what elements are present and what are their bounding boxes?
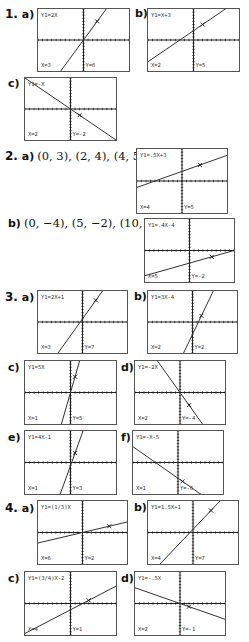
y-value: Y=-1	[182, 626, 195, 632]
graph-4c: Y1=(3/4)X-2 X=4 Y=1	[24, 571, 117, 636]
y-value: Y=-6	[180, 485, 193, 491]
part-1b-label: b)	[135, 8, 148, 20]
graph-plot	[135, 361, 225, 424]
graph-plot	[25, 78, 116, 140]
y-value: Y=-2	[73, 131, 86, 137]
equation-label: Y1=2X	[41, 12, 58, 18]
equation-label: Y1=-X-5	[136, 434, 159, 440]
equation-label: Y1=(3/4)X-2	[28, 575, 64, 581]
part-3d-label: d)	[121, 362, 134, 374]
graph-3c: Y1=5X X=1 Y=5	[24, 360, 117, 425]
equation-label: Y1=3X-4	[151, 294, 174, 300]
x-value: X=4	[28, 626, 38, 632]
problem-2b-points: b)(0, −4), (5, −2), (10, 0)	[8, 217, 158, 230]
graph-plot	[25, 361, 116, 424]
graph-plot	[145, 219, 234, 282]
equation-label: Y1=.4X-4	[148, 222, 175, 228]
x-value: X=3	[41, 62, 51, 68]
graph-plot	[148, 9, 239, 71]
equation-label: Y1=5X	[28, 364, 45, 370]
equation-label: Y1=1.5X+1	[151, 504, 181, 510]
y-value: Y=7	[85, 344, 95, 350]
graph-4d: Y1=-.5X X=2 Y=-1	[134, 571, 226, 636]
graph-plot	[25, 572, 116, 635]
x-value: X=2	[138, 626, 148, 632]
part-1c-label: c)	[8, 78, 20, 90]
equation-label: Y1=-X	[28, 81, 45, 87]
problem-1-label: 1. a)	[5, 8, 34, 21]
part-3b-label: b)	[134, 291, 147, 303]
graph-plot	[137, 149, 227, 213]
graph-2b: Y1=.4X-4 X=5 Y=-2	[144, 218, 235, 283]
graph-3b: Y1=3X-4 X=2 Y=2	[147, 290, 238, 354]
equation-label: Y1=-2X	[138, 364, 158, 370]
part-3c-label: c)	[8, 362, 20, 374]
y-value: Y=1	[73, 626, 83, 632]
x-value: X=4	[151, 555, 161, 561]
x-value: X=1	[136, 485, 146, 491]
graph-plot	[25, 431, 116, 494]
part-4d-label: d)	[121, 573, 134, 585]
graph-4b: Y1=1.5X+1 X=4 Y=7	[147, 500, 239, 565]
y-value: Y=-4	[182, 415, 195, 421]
x-value: X=6	[41, 555, 51, 561]
y-value: Y=2	[85, 555, 95, 561]
y-value: Y=7	[195, 555, 205, 561]
graph-plot	[148, 501, 238, 564]
y-value: Y=5	[196, 62, 206, 68]
problem-3-label: 3. a)	[5, 291, 34, 304]
graph-plot	[148, 291, 237, 353]
graph-3a: Y1=2X+1 X=3 Y=7	[37, 290, 128, 354]
graph-plot	[38, 9, 129, 71]
equation-label: Y1=X+3	[151, 12, 171, 18]
y-value: Y=3	[73, 485, 83, 491]
y-value: Y=6	[86, 62, 96, 68]
x-value: X=2	[138, 415, 148, 421]
equation-label: Y1=4X-1	[28, 434, 51, 440]
graph-1b: Y1=X+3 X=2 Y=5	[147, 8, 240, 72]
graph-plot	[38, 291, 127, 353]
x-value: X=4	[140, 204, 150, 210]
x-value: X=2	[151, 62, 161, 68]
part-4b-label: b)	[134, 502, 147, 514]
graph-3e: Y1=4X-1 X=1 Y=3	[24, 430, 117, 495]
graph-4a: Y1=(1/3)X X=6 Y=2	[37, 500, 128, 565]
y-value: Y=5	[73, 415, 83, 421]
graph-1c: Y1=-X X=2 Y=-2	[24, 77, 117, 141]
equation-label: Y1=.5X+3	[140, 152, 167, 158]
equation-label: Y1=-.5X	[138, 575, 161, 581]
graph-2a: Y1=.5X+3 X=4 Y=5	[136, 148, 228, 214]
part-4c-label: c)	[8, 573, 20, 585]
y-value: Y=5	[184, 204, 194, 210]
x-value: X=5	[148, 273, 158, 279]
problem-4-label: 4. a)	[5, 502, 34, 515]
x-value: X=2	[28, 131, 38, 137]
y-value: Y=-2	[192, 273, 205, 279]
part-3f-label: f)	[121, 432, 131, 444]
graph-3f: Y1=-X-5 X=1 Y=-6	[132, 430, 224, 495]
x-value: X=2	[151, 344, 161, 350]
x-value: X=1	[28, 485, 38, 491]
graph-plot	[135, 572, 225, 635]
x-value: X=3	[41, 344, 51, 350]
graph-3d: Y1=-2X X=2 Y=-4	[134, 360, 226, 425]
y-value: Y=2	[195, 344, 205, 350]
equation-label: Y1=(1/3)X	[41, 504, 71, 510]
graph-plot	[133, 431, 223, 494]
part-3e-label: e)	[8, 432, 21, 444]
graph-1a: Y1=2X X=3 Y=6	[37, 8, 130, 72]
problem-2a-points: 2. a)(0, 3), (2, 4), (4, 5)	[5, 150, 145, 163]
graph-plot	[38, 501, 127, 564]
equation-label: Y1=2X+1	[41, 294, 64, 300]
x-value: X=1	[28, 415, 38, 421]
